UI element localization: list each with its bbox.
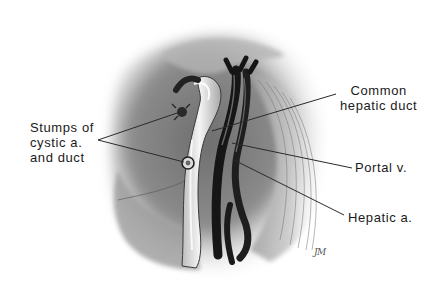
label-common-hepatic-duct: Common hepatic duct bbox=[340, 83, 417, 113]
label-line: and duct bbox=[30, 150, 94, 165]
label-hepatic-artery: Hepatic a. bbox=[348, 210, 413, 225]
label-stumps-cystic-artery-and-duct: Stumps of cystic a. and duct bbox=[30, 120, 94, 165]
label-text: Hepatic a. bbox=[348, 210, 413, 225]
label-line: Common bbox=[340, 83, 417, 98]
label-line: Stumps of bbox=[30, 120, 94, 135]
label-line: cystic a. bbox=[30, 135, 94, 150]
label-text: Portal v. bbox=[355, 160, 407, 175]
artist-signature: JM bbox=[314, 247, 326, 257]
anatomical-illustration: Stumps of cystic a. and duct Common hepa… bbox=[0, 0, 424, 287]
label-line: hepatic duct bbox=[340, 98, 417, 113]
label-portal-vein: Portal v. bbox=[355, 160, 407, 175]
